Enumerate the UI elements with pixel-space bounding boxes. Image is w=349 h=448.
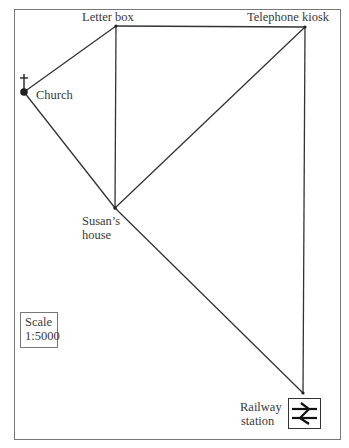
scale-title: Scale: [25, 315, 57, 329]
map-frame: [15, 10, 341, 440]
railway-station-label-line2: station: [241, 414, 274, 428]
railway-station-point: [301, 391, 304, 394]
letter-box-label: Letter box: [82, 10, 134, 24]
railway-station-label-line1: Railway: [240, 400, 282, 414]
railway-station-icon: [289, 399, 321, 429]
path-church-letterbox: [24, 26, 116, 92]
path-church-house: [24, 92, 115, 208]
scale-legend: Scale 1:5000: [20, 312, 58, 348]
susans-house-point: [113, 206, 117, 210]
map-diagram: [0, 0, 349, 448]
letter-box-point: [114, 24, 117, 27]
path-kiosk-railway: [303, 27, 305, 393]
route-lines: [24, 26, 305, 393]
path-letterbox-house: [115, 26, 116, 208]
scale-value: 1:5000: [25, 329, 57, 343]
path-house-kiosk: [115, 27, 305, 208]
church-point: [20, 88, 28, 96]
susans-house-label-line1: Susan’s: [82, 214, 120, 228]
cross-icon: [20, 74, 28, 89]
telephone-kiosk-point: [303, 25, 306, 28]
path-house-railway: [115, 208, 303, 393]
susans-house-label-line2: house: [82, 228, 111, 242]
church-label: Church: [36, 88, 73, 102]
location-points: [20, 24, 306, 394]
telephone-kiosk-label: Telephone kiosk: [247, 10, 329, 24]
path-letterbox-kiosk: [116, 26, 305, 27]
